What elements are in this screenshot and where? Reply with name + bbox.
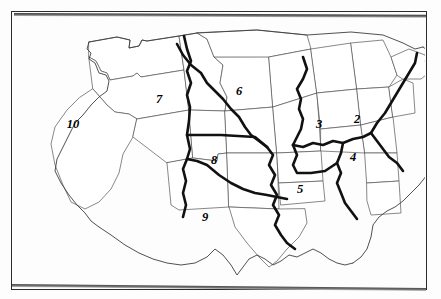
region-label-9: 9	[202, 210, 209, 224]
state-minnesota	[351, 40, 397, 89]
state-louisiana	[367, 181, 401, 215]
region-label-6: 6	[236, 84, 243, 98]
us-map-canvas: 10 7 6 8 9 3 2 4 5	[11, 13, 425, 286]
state-dakotas-north	[311, 43, 357, 93]
region-label-2: 2	[353, 112, 360, 126]
state-arkansas	[365, 153, 399, 183]
us-map-svg: 10 7 6 8 9 3 2 4 5	[11, 13, 425, 286]
coast-gulf	[99, 227, 353, 275]
state-kansas-west	[277, 151, 323, 183]
state-texas	[229, 207, 307, 267]
region-label-8: 8	[211, 153, 218, 167]
state-nevada	[133, 110, 193, 163]
region-label-7: 7	[156, 92, 163, 106]
region-label-4: 4	[349, 150, 356, 164]
map-figure: 10 7 6 8 9 3 2 4 5	[0, 0, 441, 299]
state-colorado-west	[225, 107, 277, 153]
state-outlines	[51, 30, 425, 267]
region-label-3: 3	[315, 117, 322, 131]
region-label-5: 5	[297, 182, 303, 196]
region-label-10: 10	[67, 117, 80, 131]
